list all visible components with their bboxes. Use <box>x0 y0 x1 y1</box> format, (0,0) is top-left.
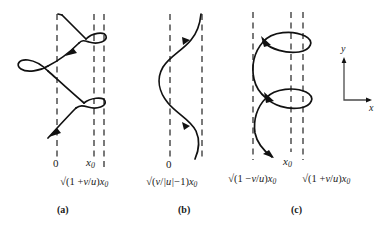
panel-a-caption: (a) <box>57 205 69 215</box>
panel-b-trajectory <box>159 14 201 159</box>
panel-b-arrowhead-upper <box>182 37 190 45</box>
panel-a-arrowhead-upper <box>65 48 77 56</box>
panel-a-group <box>18 14 106 170</box>
panel-a-eq-open: (1 + <box>66 176 83 187</box>
panel-c-group <box>253 12 312 160</box>
axis-key-y-label: y <box>341 44 345 54</box>
panel-a-origin-label: 0 <box>53 158 59 169</box>
panel-b-eq-denominator: |u| <box>163 176 174 187</box>
panel-a-x0-subscript: 0 <box>91 161 95 170</box>
panel-c-left-eq-subscript: 0 <box>272 177 276 186</box>
panel-c-x0-subscript: 0 <box>288 160 292 169</box>
panel-b-caption: (b) <box>178 205 190 215</box>
axes-key-y-arrow <box>342 57 347 63</box>
panel-b-origin-label: 0 <box>166 159 172 170</box>
panel-b-eq-minus-one: −1) <box>174 176 189 187</box>
panel-c-right-eq-open: (1 + <box>308 173 325 184</box>
panel-c-x0-label: x0 <box>283 156 292 169</box>
panel-c-left-eq-open: (1 − <box>234 173 251 184</box>
physics-trajectory-figure: .curve { fill: none; stroke: #111111; st… <box>0 0 378 226</box>
panel-b-group <box>159 14 202 160</box>
axes-key-lines <box>344 62 368 100</box>
panel-c-arrowhead-upper <box>261 36 271 47</box>
panel-a-x0-label: x0 <box>86 157 95 170</box>
panel-a-equation-label: √(1 +v/u)x0 <box>60 176 108 189</box>
panel-c-equation-left: √(1 −v/u)x0 <box>228 173 276 186</box>
figure-canvas: .curve { fill: none; stroke: #111111; st… <box>0 0 378 226</box>
panel-a-eq-subscript: 0 <box>104 180 108 189</box>
panel-b-equation-label: √(v/|u|−1)x0 <box>146 176 197 189</box>
panel-b-eq-subscript: 0 <box>194 180 198 189</box>
panel-c-caption: (c) <box>291 205 302 215</box>
panel-c-right-eq-subscript: 0 <box>346 177 350 186</box>
panel-b-arrowhead-lower <box>182 122 190 130</box>
axes-key-group <box>342 57 372 102</box>
panel-a-trajectory <box>18 14 106 138</box>
panel-c-equation-right: √(1 +v/u)x0 <box>302 173 350 186</box>
axis-key-x-label: x <box>369 103 373 113</box>
